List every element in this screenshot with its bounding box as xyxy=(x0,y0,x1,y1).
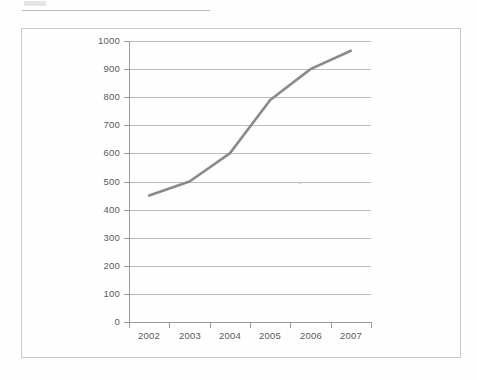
x-axis-tick xyxy=(290,322,291,328)
gridline xyxy=(129,97,371,98)
line-chart: 01002003004005006007008009001000 2002200… xyxy=(0,0,477,380)
y-axis-tick xyxy=(124,125,130,126)
y-axis-tick xyxy=(124,266,130,267)
gridline xyxy=(129,153,371,154)
y-axis-tick-label: 100 xyxy=(76,289,120,299)
y-axis-tick-label: 600 xyxy=(76,148,120,158)
y-axis-tick-label: 500 xyxy=(76,177,120,187)
y-axis-tick-label: 300 xyxy=(76,233,120,243)
y-axis-tick xyxy=(124,97,130,98)
y-axis-tick-label: 0 xyxy=(76,317,120,327)
y-axis-tick xyxy=(124,238,130,239)
y-axis-line xyxy=(129,41,130,326)
screenshot-page: 01002003004005006007008009001000 2002200… xyxy=(0,0,477,380)
x-axis-tick xyxy=(250,322,251,328)
y-axis-tick xyxy=(124,294,130,295)
scan-speck-artifact xyxy=(298,182,301,184)
y-axis-tick xyxy=(124,182,130,183)
gridline xyxy=(129,266,371,267)
y-axis-tick xyxy=(124,41,130,42)
gridline xyxy=(129,294,371,295)
y-axis-tick-label: 200 xyxy=(76,261,120,271)
gridline xyxy=(129,238,371,239)
y-axis-tick-label: 700 xyxy=(76,120,120,130)
y-axis-tick xyxy=(124,153,130,154)
y-axis-tick-labels: 01002003004005006007008009001000 xyxy=(74,0,120,380)
x-axis-tick xyxy=(169,322,170,328)
y-axis-tick xyxy=(124,210,130,211)
gridline xyxy=(129,41,371,42)
y-axis-tick-label: 900 xyxy=(76,64,120,74)
x-axis-tick xyxy=(331,322,332,328)
gridline xyxy=(129,210,371,211)
gridline xyxy=(129,125,371,126)
gridline xyxy=(129,69,371,70)
y-axis-tick-label: 400 xyxy=(76,205,120,215)
x-axis-tick xyxy=(371,322,372,328)
y-axis-tick-label: 800 xyxy=(76,92,120,102)
y-axis-tick xyxy=(124,69,130,70)
x-axis-tick xyxy=(129,322,130,328)
gridline xyxy=(129,182,371,183)
x-axis-tick-label: 2007 xyxy=(327,331,375,341)
x-axis-tick xyxy=(210,322,211,328)
y-axis-tick-label: 1000 xyxy=(76,36,120,46)
